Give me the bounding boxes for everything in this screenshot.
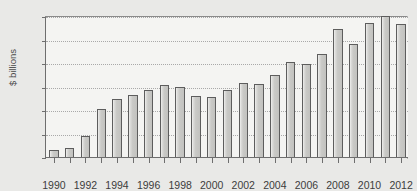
- bar: [333, 29, 342, 157]
- bar: [207, 97, 216, 157]
- y-tick-mark: [42, 158, 46, 159]
- x-tick-mark: [196, 158, 197, 163]
- bar: [65, 148, 74, 157]
- bar: [97, 109, 106, 157]
- bar: [365, 23, 374, 157]
- x-tick-mark: [117, 158, 118, 163]
- bar: [396, 24, 405, 157]
- bar: [302, 64, 311, 157]
- x-tick-mark: [228, 158, 229, 163]
- x-tick-mark: [370, 158, 371, 163]
- bar-series: [46, 17, 408, 157]
- x-tick-label: 2012: [380, 180, 417, 191]
- x-tick-mark: [85, 158, 86, 163]
- x-tick-mark: [180, 158, 181, 163]
- y-axis-title: $ billions: [7, 23, 18, 113]
- bar: [239, 83, 248, 157]
- x-tick-mark: [338, 158, 339, 163]
- bar: [128, 95, 137, 157]
- bar: [81, 136, 90, 157]
- x-tick-mark: [259, 158, 260, 163]
- bar: [49, 150, 58, 157]
- bar: [286, 62, 295, 157]
- x-tick-mark: [70, 158, 71, 163]
- x-tick-mark: [212, 158, 213, 163]
- bar: [191, 96, 200, 157]
- x-tick-mark: [149, 158, 150, 163]
- bar: [175, 87, 184, 158]
- bar: [317, 54, 326, 157]
- bar: [270, 75, 279, 157]
- bar: [160, 85, 169, 157]
- x-tick-mark: [164, 158, 165, 163]
- x-tick-mark: [322, 158, 323, 163]
- x-tick-mark: [291, 158, 292, 163]
- x-tick-mark: [306, 158, 307, 163]
- x-tick-mark: [133, 158, 134, 163]
- bar: [381, 16, 390, 157]
- bar: [223, 90, 232, 157]
- x-tick-mark: [385, 158, 386, 163]
- bar: [112, 99, 121, 157]
- x-tick-mark: [54, 158, 55, 163]
- x-tick-mark: [275, 158, 276, 163]
- bar: [144, 90, 153, 157]
- bar: [254, 84, 263, 157]
- x-tick-mark: [354, 158, 355, 163]
- x-tick-mark: [401, 158, 402, 163]
- x-tick-mark: [243, 158, 244, 163]
- x-tick-mark: [101, 158, 102, 163]
- bar: [349, 44, 358, 157]
- plot-area: 020406080100120 199019921994199619982000…: [45, 17, 408, 158]
